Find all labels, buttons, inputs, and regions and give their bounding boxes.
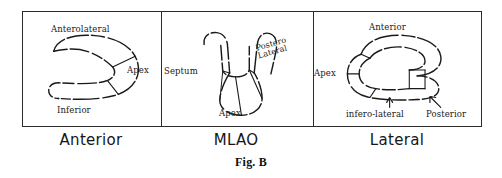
view-label-mlao: MLAO — [160, 131, 312, 149]
lower-limb-cap — [49, 83, 59, 99]
divider-apex-anterior — [361, 54, 370, 58]
label-apex: Apex — [127, 66, 149, 75]
inner-contour — [54, 49, 115, 84]
outer-apex-contour — [347, 54, 417, 100]
label-apex: Apex — [219, 109, 241, 118]
arrow-posterior — [430, 97, 441, 108]
label-infero-lateral: infero-lateral — [346, 110, 404, 119]
inner-right-limb — [236, 46, 250, 76]
panel-lateral: Anterior Apex infero-lateral Posterior — [313, 12, 481, 126]
inner-lower-contour — [359, 58, 409, 90]
figure-caption: Fig. B — [0, 155, 502, 170]
divider-septum-apex-2 — [220, 71, 223, 100]
view-label-anterior: Anterior — [22, 131, 160, 149]
label-posterior: Posterior — [426, 110, 466, 119]
outer-left-limb — [204, 32, 230, 72]
posterior-lobe — [417, 76, 439, 100]
inner-upper-contour — [370, 47, 425, 70]
outer-contour — [54, 35, 139, 99]
label-inferior: Inferior — [57, 106, 91, 115]
panel-mlao: Septum PosteroLateral Apex — [161, 12, 313, 126]
label-anterior: Anterior — [369, 23, 406, 32]
panel-anterior: Anterolateral Apex Inferior — [23, 12, 161, 126]
label-apex: Apex — [314, 69, 336, 78]
label-septum: Septum — [164, 67, 198, 76]
figure-b-container: Anterolateral Apex Inferior — [0, 0, 502, 178]
divider-apex-inferolateral — [370, 89, 376, 98]
label-anterolateral: Anterolateral — [51, 25, 110, 34]
view-label-lateral: Lateral — [313, 131, 481, 149]
divider-apex-inferior — [108, 81, 119, 95]
panel-row: Anterolateral Apex Inferior — [22, 11, 482, 127]
